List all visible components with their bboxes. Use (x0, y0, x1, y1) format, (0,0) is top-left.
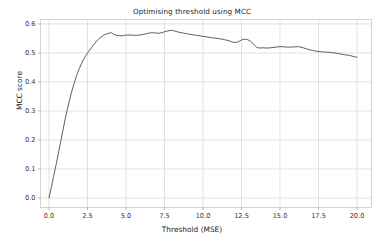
x-tick-label: 0.0 (44, 212, 55, 220)
x-axis-label: Threshold (MSE) (0, 225, 384, 234)
x-tick-label: 7.5 (159, 212, 170, 220)
plot-frame (41, 20, 372, 208)
y-axis-label: MCC score (15, 31, 24, 151)
x-tick-label: 15.0 (273, 212, 288, 220)
y-tick-label: 0.3 (25, 107, 36, 115)
x-tick-label: 12.5 (234, 212, 249, 220)
axes-frame (41, 20, 372, 208)
y-tick-labels: 0.00.10.20.30.40.50.6 (25, 20, 41, 202)
grid-lines (41, 20, 372, 208)
plot-area-svg: 0.02.55.07.510.012.515.017.520.0 0.00.10… (0, 0, 384, 244)
y-tick-label: 0.4 (25, 78, 36, 86)
y-tick-label: 0.0 (25, 194, 36, 202)
x-tick-label: 17.5 (311, 212, 326, 220)
x-tick-label: 2.5 (82, 212, 93, 220)
y-tick-label: 0.6 (25, 20, 36, 28)
x-tick-label: 5.0 (121, 212, 132, 220)
chart-figure: Optimising threshold using MCC 0.02.55.0… (0, 0, 384, 244)
x-tick-label: 20.0 (350, 212, 365, 220)
y-tick-label: 0.5 (25, 49, 36, 57)
y-tick-label: 0.2 (25, 136, 36, 144)
x-tick-label: 10.0 (196, 212, 211, 220)
y-tick-label: 0.1 (25, 165, 36, 173)
x-tick-labels: 0.02.55.07.510.012.515.017.520.0 (44, 208, 365, 221)
